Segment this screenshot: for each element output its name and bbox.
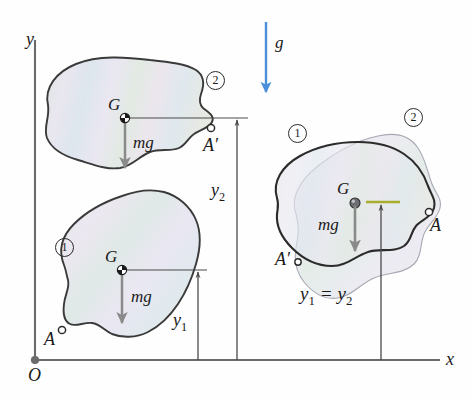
badge-position-1-right: 1 <box>288 124 307 143</box>
dimension-label-y1: y1 <box>173 311 187 333</box>
dimension-label-y2-sub: 2 <box>219 190 225 204</box>
dimension-label-y2: y2 <box>211 181 225 203</box>
center-of-mass-marker-left-lower <box>117 265 126 274</box>
point-marker-a-prime-right <box>295 259 301 265</box>
badge-position-2-right: 2 <box>404 108 423 127</box>
center-of-mass-marker-left-upper <box>120 113 129 122</box>
weight-label-left-upper: mg <box>133 134 154 151</box>
origin-label: O <box>28 366 41 384</box>
origin-marker <box>31 356 39 364</box>
equation-operator: = <box>315 283 338 304</box>
equation-y1-equals-y2: y1=y2 <box>300 284 353 308</box>
badge-position-1-lower: 1 <box>55 238 74 257</box>
equation-right-base: y <box>338 283 346 304</box>
x-axis-label: x <box>446 350 454 368</box>
body-left-upper <box>46 57 213 168</box>
weight-label-left-lower: mg <box>131 288 152 305</box>
gravity-label: g <box>275 34 284 51</box>
dimension-label-y2-base: y <box>211 180 219 200</box>
point-marker-a-prime-upper <box>207 124 214 131</box>
weight-label-right: mg <box>318 216 339 233</box>
y-axis-label: y <box>26 30 34 48</box>
point-label-a-lower: A <box>44 330 55 348</box>
figure-vector-layer <box>0 0 471 398</box>
figure-canvas: y x O g 2 G mg A′ 1 G mg A y1 y2 1 2 G m… <box>0 0 471 398</box>
dimension-label-y1-base: y <box>173 310 181 330</box>
center-of-mass-label-right: G <box>337 180 349 197</box>
point-label-a-prime-upper: A′ <box>203 136 218 154</box>
point-label-a-prime-right: A′ <box>275 250 290 268</box>
point-label-a-right: A <box>430 216 441 234</box>
badge-position-2-upper: 2 <box>206 71 225 90</box>
center-of-mass-label-left-lower: G <box>105 248 117 265</box>
equation-right-sub: 2 <box>346 293 352 308</box>
point-marker-a-lower <box>58 326 65 333</box>
center-of-mass-label-left-upper: G <box>108 96 120 113</box>
equation-left-sub: 1 <box>308 293 314 308</box>
dimension-label-y1-sub: 1 <box>181 320 187 334</box>
